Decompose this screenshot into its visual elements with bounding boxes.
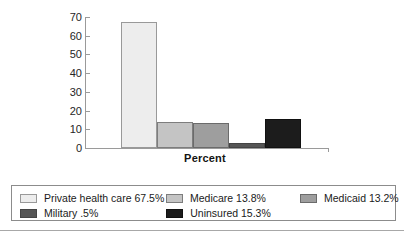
chart-legend: Private health care 67.5% Medicare 13.8%… — [11, 185, 396, 221]
legend-swatch-private-health-care — [20, 194, 37, 203]
plot-area: 70 60 50 40 30 20 10 0 Percent — [0, 0, 404, 165]
y-tick-label-30: 30 — [22, 87, 82, 98]
bar-medicare — [157, 122, 193, 148]
bar-series-container — [86, 17, 330, 148]
legend-item-medicaid: Medicaid 13.2% — [300, 193, 395, 204]
legend-label-medicare: Medicare 13.8% — [190, 193, 266, 204]
y-tick-label-50: 50 — [22, 49, 82, 60]
y-tick-label-70: 70 — [22, 12, 82, 23]
x-axis-line — [85, 148, 329, 149]
legend-swatch-military — [20, 209, 37, 218]
legend-row-2: Military .5% Uninsured 15.3% — [12, 206, 395, 220]
x-axis-title: Percent — [0, 152, 404, 164]
bar-private-health-care — [121, 22, 157, 148]
legend-item-uninsured: Uninsured 15.3% — [166, 208, 300, 219]
legend-item-private-health-care: Private health care 67.5% — [12, 193, 166, 204]
y-tick-label-20: 20 — [22, 106, 82, 117]
bar-uninsured — [265, 119, 301, 148]
y-tick-label-10: 10 — [22, 124, 82, 135]
legend-item-military: Military .5% — [12, 208, 166, 219]
legend-row-1: Private health care 67.5% Medicare 13.8%… — [12, 191, 395, 205]
legend-label-uninsured: Uninsured 15.3% — [190, 208, 271, 219]
y-tick-label-40: 40 — [22, 68, 82, 79]
bar-medicaid — [193, 123, 229, 148]
bar-military — [229, 143, 265, 148]
y-tick-label-60: 60 — [22, 31, 82, 42]
legend-label-medicaid: Medicaid 13.2% — [324, 193, 399, 204]
bar-chart-figure: 70 60 50 40 30 20 10 0 Percent — [0, 0, 404, 239]
legend-swatch-uninsured — [166, 209, 183, 218]
legend-item-medicare: Medicare 13.8% — [166, 193, 300, 204]
legend-label-military: Military .5% — [44, 208, 98, 219]
legend-swatch-medicaid — [300, 194, 317, 203]
bottom-divider — [0, 230, 404, 231]
legend-swatch-medicare — [166, 194, 183, 203]
legend-label-private-health-care: Private health care 67.5% — [44, 193, 164, 204]
